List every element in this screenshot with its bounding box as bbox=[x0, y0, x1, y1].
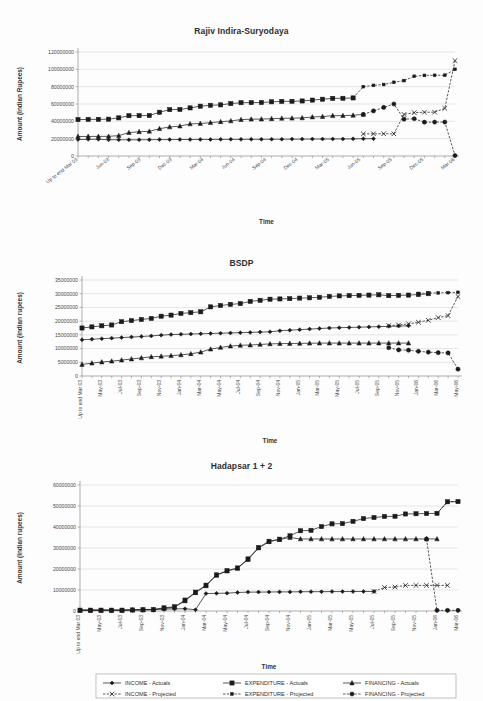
data-point-diamond bbox=[259, 137, 263, 141]
data-point-square bbox=[377, 293, 381, 297]
x-axis-tick-label: Sep-04 bbox=[255, 380, 261, 396]
data-point-cross bbox=[381, 131, 386, 136]
data-point-square bbox=[178, 107, 182, 111]
data-point-diamond bbox=[331, 137, 335, 141]
data-point-diamond bbox=[321, 137, 325, 141]
data-point-square bbox=[259, 100, 263, 104]
data-point-circle bbox=[456, 608, 460, 612]
data-point-square bbox=[239, 101, 243, 105]
y-axis-title: Amount (Indian Rupees) bbox=[16, 67, 24, 141]
chart-block-bsdp: BSDP 05000000100000001500000020000000250… bbox=[0, 258, 483, 453]
data-point-diamond bbox=[371, 137, 375, 141]
x-axis-tick-label: Mar-06 bbox=[439, 156, 455, 171]
chart-block-rajiv-indira-suryodaya: Rajiv Indira-Suryodaya 02000000040000000… bbox=[0, 26, 483, 236]
data-point-square bbox=[269, 100, 273, 104]
data-point-circle bbox=[422, 120, 426, 124]
data-point-diamond bbox=[327, 326, 331, 330]
data-point-square bbox=[199, 310, 203, 314]
data-point-square bbox=[86, 117, 90, 121]
data-point-square bbox=[357, 293, 361, 297]
x-axis-tick-label: Nov-05 bbox=[411, 615, 417, 631]
chart-title: Hadapsar 1 + 2 bbox=[0, 461, 483, 471]
legend-label: EXPENDITURE - Projected bbox=[245, 691, 313, 697]
data-point-small-square bbox=[436, 512, 439, 515]
data-point-diamond bbox=[225, 591, 229, 595]
data-point-square bbox=[127, 114, 131, 118]
data-point-square bbox=[80, 326, 84, 330]
data-point-square bbox=[119, 320, 123, 324]
data-point-diamond bbox=[298, 328, 302, 332]
chart-plot-area: 0500000010000000150000002000000025000000… bbox=[0, 268, 483, 453]
y-axis-tick-label: 20000000 bbox=[51, 136, 74, 142]
x-axis-tick-label: Mar-05 bbox=[314, 156, 330, 171]
data-point-square bbox=[331, 96, 335, 100]
data-point-square bbox=[367, 293, 371, 297]
data-point-diamond bbox=[367, 325, 371, 329]
data-point-square bbox=[268, 297, 272, 301]
x-axis-tick-label: Jan-04 bbox=[176, 380, 182, 396]
data-point-square bbox=[106, 117, 110, 121]
x-axis-tick-label: Jul-04 bbox=[235, 380, 241, 394]
data-point-diamond bbox=[246, 590, 250, 594]
data-point-square bbox=[319, 524, 323, 528]
data-point-square bbox=[424, 511, 428, 515]
data-point-square bbox=[258, 298, 262, 302]
x-axis-tick-label: Mar-06 bbox=[433, 380, 439, 396]
data-point-square bbox=[393, 514, 397, 518]
data-point-diamond bbox=[178, 138, 182, 142]
y-axis-tick-label: 10000000 bbox=[53, 587, 76, 593]
data-point-small-square bbox=[457, 291, 460, 294]
data-point-square bbox=[320, 97, 324, 101]
x-axis-tick-label: Nov-03 bbox=[159, 615, 165, 631]
data-point-diamond bbox=[299, 590, 303, 594]
data-point-small-square bbox=[231, 693, 234, 696]
data-point-small-square bbox=[433, 74, 436, 77]
data-point-square bbox=[139, 317, 143, 321]
data-point-square bbox=[218, 303, 222, 307]
data-point-diamond bbox=[317, 327, 321, 331]
x-axis-tick-label: Sep-03 bbox=[125, 156, 142, 171]
data-point-cross bbox=[436, 315, 441, 320]
data-point-diamond bbox=[288, 590, 292, 594]
data-point-small-square bbox=[352, 97, 355, 100]
data-point-diamond bbox=[309, 590, 313, 594]
data-point-circle bbox=[453, 153, 457, 157]
data-point-small-square bbox=[446, 500, 449, 503]
data-point-diamond bbox=[239, 137, 243, 141]
x-axis-tick-label: Dec-04 bbox=[282, 156, 299, 171]
data-point-diamond bbox=[80, 338, 84, 342]
data-point-square bbox=[317, 295, 321, 299]
data-point-diamond bbox=[208, 137, 212, 141]
series-line-expenditure-actuals bbox=[82, 294, 428, 328]
x-axis-title: Time bbox=[262, 663, 277, 670]
data-point-diamond bbox=[149, 334, 153, 338]
x-axis-tick-label: May-06 bbox=[453, 380, 459, 397]
x-axis-tick-label: Up to end Mar 03 bbox=[44, 156, 78, 185]
data-point-diamond bbox=[127, 138, 131, 142]
data-point-circle bbox=[456, 367, 460, 371]
data-point-square bbox=[414, 512, 418, 516]
x-axis-tick-label: Sep-05 bbox=[374, 380, 380, 396]
data-point-diamond bbox=[377, 325, 381, 329]
y-axis-tick-label: 60000000 bbox=[51, 101, 74, 107]
data-point-diamond bbox=[249, 137, 253, 141]
x-axis-tick-label: Sep-03 bbox=[136, 380, 142, 396]
x-axis-tick-label: Dec-05 bbox=[408, 156, 425, 171]
x-axis-tick-label: May-03 bbox=[97, 380, 103, 397]
data-point-circle bbox=[433, 120, 437, 124]
data-point-square bbox=[188, 106, 192, 110]
data-point-circle bbox=[435, 608, 439, 612]
data-point-diamond bbox=[280, 137, 284, 141]
data-point-small-square bbox=[423, 74, 426, 77]
data-point-small-square bbox=[392, 81, 395, 84]
data-point-diamond bbox=[168, 138, 172, 142]
data-point-diamond bbox=[236, 591, 240, 595]
data-point-small-square bbox=[457, 500, 460, 503]
data-point-square bbox=[300, 99, 304, 103]
data-point-square bbox=[168, 108, 172, 112]
chart-title: Rajiv Indira-Suryodaya bbox=[0, 26, 483, 36]
chart-plot-area: 0100000002000000030000000400000005000000… bbox=[0, 471, 483, 701]
data-point-diamond bbox=[310, 137, 314, 141]
y-axis-tick-label: 30000000 bbox=[53, 545, 76, 551]
data-point-diamond bbox=[179, 332, 183, 336]
